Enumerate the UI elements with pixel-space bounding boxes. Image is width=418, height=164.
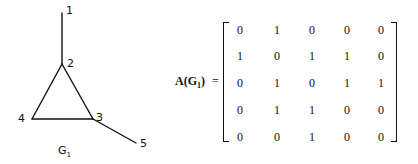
matrix-right-bracket (391, 22, 397, 142)
matrix-label-prefix: A(G (175, 74, 197, 88)
matrix-cell: 0 (270, 50, 284, 62)
matrix-cell: 1 (340, 77, 354, 89)
equals-sign: = (212, 74, 219, 88)
matrix-cell: 0 (305, 24, 319, 36)
vertex-label-4: 4 (18, 113, 25, 124)
matrix-cell: 0 (374, 131, 388, 143)
matrix-cell: 1 (270, 104, 284, 116)
edge-2-3 (62, 64, 93, 119)
matrix-cell: 0 (374, 104, 388, 116)
matrix-cell: 1 (270, 24, 284, 36)
vertex-label-5: 5 (140, 138, 147, 149)
matrix-label: A(G1) = (175, 74, 219, 90)
matrix-cell: 1 (305, 50, 319, 62)
graph-subscript: 1 (67, 151, 71, 159)
matrix-cell: 0 (374, 24, 388, 36)
matrix-label-suffix: ) (201, 74, 205, 88)
graph-name: G (58, 144, 67, 157)
vertex-label-3: 3 (96, 112, 103, 123)
matrix-cell: 0 (233, 24, 247, 36)
matrix-cell: 1 (340, 50, 354, 62)
matrix-cell: 0 (270, 131, 284, 143)
matrix-cell: 0 (233, 104, 247, 116)
matrix-cell: 0 (374, 50, 388, 62)
vertex-label-1: 1 (66, 5, 73, 16)
matrix-cell: 0 (340, 24, 354, 36)
matrix-cell: 1 (233, 50, 247, 62)
edge-2-4 (32, 64, 62, 119)
vertex-label-2: 2 (67, 58, 74, 69)
graph-caption: G1 (58, 145, 71, 159)
matrix-cell: 0 (305, 77, 319, 89)
matrix-cell: 1 (305, 104, 319, 116)
matrix-left-bracket (223, 22, 229, 142)
matrix-cell: 0 (233, 131, 247, 143)
matrix-cell: 0 (233, 77, 247, 89)
matrix-cell: 1 (305, 131, 319, 143)
matrix-cell: 0 (340, 131, 354, 143)
matrix-cell: 0 (340, 104, 354, 116)
matrix-cell: 1 (374, 77, 388, 89)
matrix-cell: 1 (270, 77, 284, 89)
